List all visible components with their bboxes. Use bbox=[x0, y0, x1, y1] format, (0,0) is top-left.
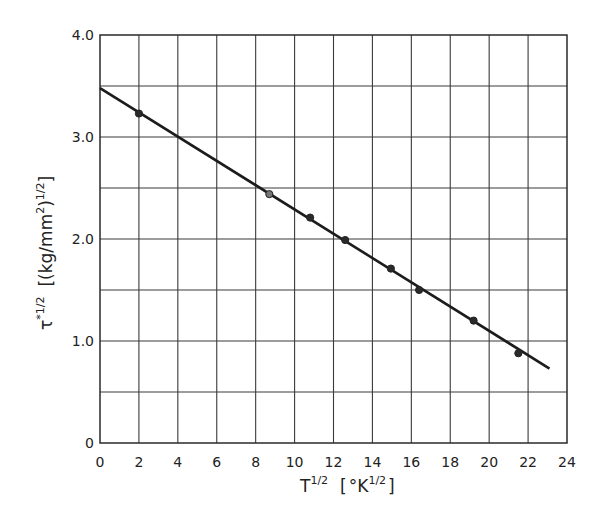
data-point bbox=[470, 317, 477, 324]
x-tick-label: 12 bbox=[325, 454, 343, 470]
y-tick-labels: 01.02.03.04.0 bbox=[72, 27, 94, 451]
data-point bbox=[515, 350, 522, 357]
y-tick-label: 4.0 bbox=[72, 27, 94, 43]
y-tick-label: 1.0 bbox=[72, 333, 94, 349]
y-tick-label: 0 bbox=[85, 435, 94, 451]
x-tick-label: 2 bbox=[134, 454, 143, 470]
x-tick-label: 10 bbox=[286, 454, 304, 470]
y-tick-label: 2.0 bbox=[72, 231, 94, 247]
x-tick-label: 8 bbox=[251, 454, 260, 470]
data-point bbox=[387, 265, 394, 272]
x-tick-label: 18 bbox=[441, 454, 459, 470]
x-tick-label: 0 bbox=[96, 454, 105, 470]
data-point bbox=[307, 214, 314, 221]
x-tick-labels: 024681012141618202224 bbox=[96, 454, 576, 470]
x-tick-label: 4 bbox=[173, 454, 182, 470]
x-axis-label: T1/2[°K1/2] bbox=[299, 474, 395, 496]
x-tick-label: 6 bbox=[212, 454, 221, 470]
x-tick-label: 22 bbox=[519, 454, 537, 470]
x-tick-label: 14 bbox=[364, 454, 382, 470]
chart: 024681012141618202224 01.02.03.04.0 T1/2… bbox=[0, 0, 608, 525]
fit-line bbox=[100, 88, 549, 369]
data-point bbox=[342, 236, 349, 243]
data-point bbox=[416, 286, 423, 293]
grid bbox=[100, 35, 567, 443]
data-point bbox=[135, 110, 142, 117]
x-tick-label: 16 bbox=[402, 454, 420, 470]
y-axis-label: τ*1/2[(kg/mm2)1/2] bbox=[34, 176, 56, 330]
x-tick-label: 20 bbox=[480, 454, 498, 470]
x-tick-label: 24 bbox=[558, 454, 576, 470]
y-tick-label: 3.0 bbox=[72, 129, 94, 145]
data-point bbox=[266, 191, 273, 198]
